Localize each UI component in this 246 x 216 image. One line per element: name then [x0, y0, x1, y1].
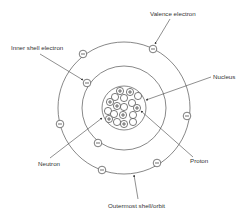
proton-particle	[113, 102, 120, 109]
valence-electron-label: Valence electron	[150, 10, 196, 17]
neutron-label: Neutron	[38, 160, 61, 167]
neutron-particle	[120, 94, 127, 101]
electron-inner-shell	[94, 139, 102, 147]
inner-shell-electron-leader	[40, 54, 83, 80]
proton-particle	[105, 115, 112, 122]
proton-particle	[126, 88, 133, 95]
electron-outer-shell	[79, 50, 87, 58]
electron-outer-shell	[149, 45, 157, 53]
electron-outer-shell	[183, 112, 191, 120]
proton-label: Proton	[190, 157, 209, 164]
nucleus	[102, 86, 146, 130]
proton-particle	[116, 87, 123, 94]
neutron-particle	[129, 118, 136, 125]
electron-outer-shell	[98, 166, 106, 174]
proton-particle	[120, 120, 127, 127]
neutron-particle	[113, 118, 120, 125]
proton-particle	[119, 111, 126, 118]
electron-inner-shell	[83, 79, 91, 87]
nucleus-label: Nucleus	[213, 73, 235, 80]
inner-shell-electron-label: Inner shell electron	[11, 44, 64, 51]
electron-outer-shell	[56, 120, 64, 128]
neutron-particle	[134, 92, 141, 99]
outermost-shell-label: Outermost shell/orbit	[108, 202, 165, 209]
electron-outer-shell	[153, 159, 161, 167]
proton-particle	[133, 104, 140, 111]
atom-diagram: Valence electron Inner shell electron Nu…	[0, 0, 246, 216]
proton-particle	[106, 98, 113, 105]
neutron-particle	[129, 111, 136, 118]
outermost-shell-leader	[134, 175, 138, 199]
valence-electron-leader	[155, 19, 170, 44]
neutron-particle	[120, 103, 127, 110]
